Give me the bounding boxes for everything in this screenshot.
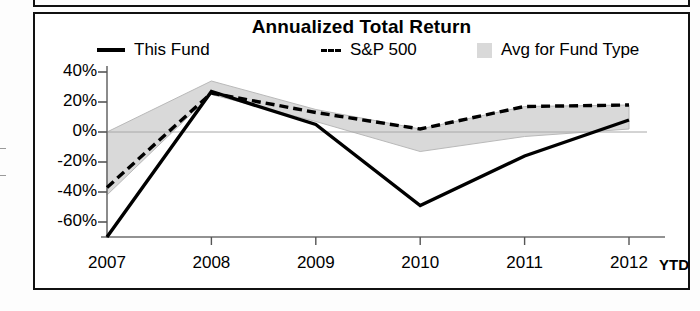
y-axis-tick-label: 40% [35, 61, 97, 81]
x-axis-tick-label: 2009 [280, 253, 352, 273]
plot-area: 40%20%0%-20%-40%-60%20072008200920102011… [35, 14, 692, 292]
y-axis-tick-label: 0% [35, 121, 97, 141]
chart-panel: Annualized Total Return This Fund S&P 50… [33, 12, 690, 290]
x-axis-tick-label: 2012 [593, 253, 665, 273]
x-axis-ytd-label: YTD [659, 256, 689, 273]
x-axis-tick-label: 2007 [71, 253, 143, 273]
y-axis-tick-label: -60% [35, 211, 97, 231]
y-axis-tick-label: 20% [35, 91, 97, 111]
y-axis-tick-label: -40% [35, 181, 97, 201]
chart-svg [35, 14, 692, 292]
x-axis-tick-label: 2011 [489, 253, 561, 273]
series-band-avg-for-fund-type [107, 81, 629, 195]
y-axis-tick-label: -20% [35, 151, 97, 171]
x-axis-tick-label: 2010 [384, 253, 456, 273]
left-margin-stub [0, 148, 6, 176]
x-axis-tick-label: 2008 [175, 253, 247, 273]
top-rule-divider [33, 0, 690, 7]
